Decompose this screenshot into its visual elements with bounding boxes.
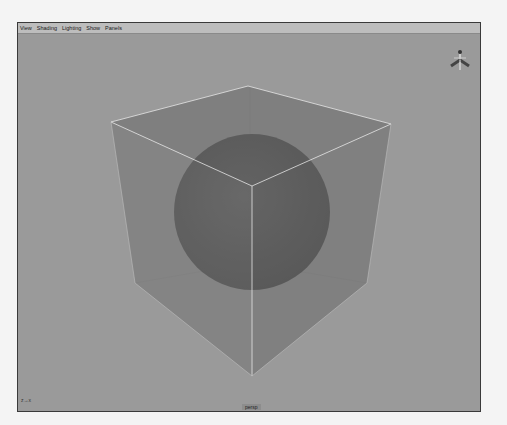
menu-show[interactable]: Show bbox=[86, 25, 100, 31]
axis-gizmo-icon: z→x bbox=[21, 397, 31, 403]
menu-lighting[interactable]: Lighting bbox=[62, 25, 81, 31]
menu-panels[interactable]: Panels bbox=[105, 25, 122, 31]
camera-name-label: persp bbox=[242, 404, 261, 410]
view-cube-icon[interactable] bbox=[451, 50, 469, 70]
3d-scene[interactable] bbox=[18, 33, 480, 411]
cube[interactable] bbox=[111, 86, 391, 376]
menu-view[interactable]: View bbox=[20, 25, 32, 31]
menu-shading[interactable]: Shading bbox=[37, 25, 57, 31]
perspective-viewport[interactable]: View Shading Lighting Show Panels bbox=[17, 22, 481, 412]
